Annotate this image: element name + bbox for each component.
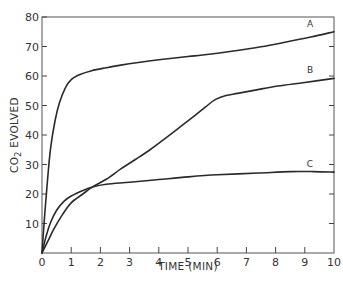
y-tick-label: 70: [25, 41, 39, 54]
data-curves: [42, 32, 334, 253]
curve-label-c: C: [307, 159, 313, 169]
x-axis-title: TIME (MIN): [157, 260, 218, 272]
curve-c: [42, 171, 334, 253]
y-tick-label: 60: [25, 70, 39, 83]
y-axis-title-co: CO: [8, 157, 20, 173]
x-tick-label: 8: [272, 256, 279, 269]
y-axis-title: CO2 EVOLVED: [8, 97, 23, 173]
plot-frame: [42, 17, 334, 253]
curve-label-a: A: [307, 19, 314, 29]
co2-evolved-line-chart: 1020304050607080 012345678910 ABC TIME (…: [0, 0, 343, 284]
y-tick-label: 50: [25, 100, 39, 113]
x-tick-label: 2: [97, 256, 104, 269]
y-tick-label: 10: [25, 218, 39, 231]
x-tick-label: 0: [39, 256, 46, 269]
y-axis-ticks: 1020304050607080: [25, 11, 334, 231]
plot-area-border: [42, 17, 334, 253]
x-tick-label: 1: [68, 256, 75, 269]
x-tick-label: 7: [243, 256, 250, 269]
x-tick-label: 9: [301, 256, 308, 269]
y-tick-label: 20: [25, 188, 39, 201]
y-tick-label: 30: [25, 159, 39, 172]
x-tick-label: 3: [126, 256, 133, 269]
y-axis-title-rest: EVOLVED: [8, 97, 20, 151]
y-tick-label: 40: [25, 129, 39, 142]
curve-a: [42, 32, 334, 253]
y-tick-label: 80: [25, 11, 39, 24]
curve-label-b: B: [307, 65, 313, 75]
curve-labels: ABC: [307, 19, 314, 169]
curve-b: [42, 78, 334, 253]
x-tick-label: 10: [327, 256, 341, 269]
